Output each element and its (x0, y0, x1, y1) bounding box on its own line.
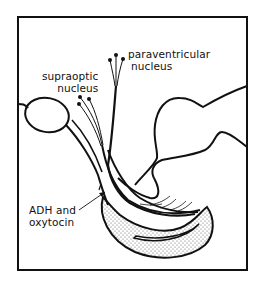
diagram-canvas: paraventricular nucleus supraoptic nucle… (0, 0, 260, 288)
supraoptic-label: supraoptic nucleus (42, 70, 98, 94)
left-contour (18, 104, 28, 108)
optic-chiasm (22, 94, 72, 136)
paraventricular-label-line2: nucleus (128, 60, 210, 72)
brain-lower-contour (118, 132, 247, 198)
hormones-label-line1: ADH and (29, 204, 76, 216)
supraoptic-nucleus-dots (77, 95, 91, 106)
supraoptic-fibers (79, 97, 200, 213)
paraventricular-label: paraventricular nucleus (128, 48, 210, 72)
hormones-label: ADH and oxytocin (29, 204, 76, 228)
supraoptic-label-line1: supraoptic (42, 70, 98, 82)
paraventricular-label-line1: paraventricular (128, 48, 210, 60)
hormones-label-line2: oxytocin (29, 216, 76, 228)
hypothalamus-pituitary-drawing (0, 0, 260, 288)
supraoptic-label-line2: nucleus (42, 82, 98, 94)
